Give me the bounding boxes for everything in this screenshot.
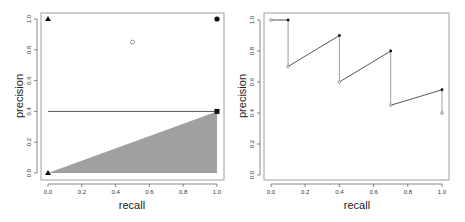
open-circle-marker	[389, 104, 392, 107]
open-circle-marker	[131, 40, 135, 44]
x-tick-label: 1.0	[213, 189, 222, 195]
x-tick-label: 0.0	[44, 189, 53, 195]
left-x-axis: 0.00.20.40.60.81.0	[44, 184, 222, 195]
x-tick-label: 0.8	[179, 189, 188, 195]
y-tick-label: 1.0	[249, 15, 255, 24]
right-x-axis: 0.00.20.40.60.81.0	[267, 184, 447, 195]
open-circle-marker	[338, 81, 341, 84]
open-circle-marker	[270, 19, 273, 22]
y-tick-label: 0.4	[249, 108, 255, 117]
right-panel: 0.00.20.40.60.81.0 0.00.20.40.60.81.0 re…	[236, 13, 449, 211]
x-tick-label: 0.6	[145, 189, 154, 195]
open-circle-marker	[441, 112, 444, 115]
right-series-line	[271, 20, 442, 113]
filled-circle-marker	[338, 34, 341, 37]
shaded-triangle	[48, 111, 217, 173]
right-points	[270, 19, 444, 115]
y-tick-label: 0.0	[249, 170, 255, 179]
x-tick-label: 0.6	[369, 189, 378, 195]
right-y-axis: 0.00.20.40.60.81.0	[249, 15, 260, 179]
x-tick-label: 0.4	[111, 189, 120, 195]
right-plot-frame	[264, 13, 449, 180]
y-tick-label: 0.2	[249, 139, 255, 148]
filled-circle-marker	[214, 16, 219, 21]
x-tick-label: 0.4	[335, 189, 344, 195]
left-y-axis: 0.00.20.40.60.81.0	[26, 14, 37, 177]
y-tick-label: 1.0	[26, 14, 32, 23]
x-tick-label: 0.2	[78, 189, 87, 195]
left-shaded-area	[48, 111, 217, 173]
open-circle-marker	[287, 65, 290, 68]
y-tick-label: 0.6	[26, 76, 32, 85]
square-marker	[215, 109, 220, 114]
x-tick-label: 0.8	[404, 189, 413, 195]
left-x-axis-title: recall	[119, 199, 145, 211]
filled-circle-marker	[441, 88, 444, 91]
x-tick-label: 0.2	[301, 189, 310, 195]
x-tick-label: 0.0	[267, 189, 276, 195]
y-tick-label: 0.8	[249, 46, 255, 55]
y-tick-label: 0.8	[26, 45, 32, 54]
y-tick-label: 0.2	[26, 137, 32, 146]
left-y-axis-title: precision	[13, 74, 25, 118]
y-tick-label: 0.6	[249, 77, 255, 86]
filled-circle-marker	[389, 50, 392, 53]
series-segment	[391, 90, 442, 106]
filled-circle-marker	[287, 19, 290, 22]
y-tick-label: 0.4	[26, 107, 32, 116]
chart-canvas: 0.00.20.40.60.81.0 0.00.20.40.60.81.0 re…	[0, 0, 465, 222]
right-y-axis-title: precision	[236, 74, 248, 118]
triangle-marker	[45, 16, 51, 21]
series-segment	[288, 36, 339, 67]
x-tick-label: 1.0	[438, 189, 447, 195]
y-tick-label: 0.0	[26, 168, 32, 177]
series-segment	[339, 51, 390, 82]
right-x-axis-title: recall	[344, 199, 370, 211]
left-panel: 0.00.20.40.60.81.0 0.00.20.40.60.81.0 re…	[13, 13, 224, 211]
